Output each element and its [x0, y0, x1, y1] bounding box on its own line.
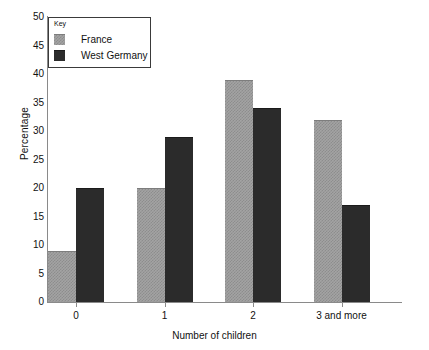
bar-france-2 [225, 80, 253, 302]
x-tick [76, 303, 77, 307]
x-axis-title: Number of children [0, 330, 429, 341]
y-tick-label: 15 [18, 212, 44, 222]
x-tick-label: 2 [250, 310, 256, 322]
x-tick-label: 0 [73, 310, 79, 322]
y-tick-label: 10 [18, 240, 44, 250]
x-tick-label: 1 [162, 310, 168, 322]
y-tick-label: 45 [18, 41, 44, 51]
bar-west-germany-3-and-more [342, 205, 370, 302]
legend-label-france: France [81, 33, 112, 46]
y-tick-label: 20 [18, 183, 44, 193]
legend-label-west-germany: West Germany [81, 49, 148, 62]
legend: Key France West Germany [48, 17, 151, 68]
y-axis-tick-labels: 05101520253035404550 [14, 0, 44, 350]
bar-france-1 [137, 188, 165, 302]
y-tick-label: 30 [18, 126, 44, 136]
bar-west-germany-2 [253, 108, 281, 302]
bar-west-germany-1 [165, 137, 193, 302]
y-tick-label: 0 [18, 297, 44, 307]
y-tick-label: 35 [18, 98, 44, 108]
legend-title: Key [54, 20, 66, 27]
x-tick [253, 303, 254, 307]
bar-france-0 [48, 251, 76, 302]
bar-west-germany-0 [76, 188, 104, 302]
x-tick-label: 3 and more [316, 310, 367, 322]
x-tick [342, 303, 343, 307]
x-tick [165, 303, 166, 307]
y-tick-label: 5 [18, 269, 44, 279]
y-tick-label: 50 [18, 12, 44, 22]
legend-swatch-west-germany [54, 50, 65, 61]
bar-france-3-and-more [314, 120, 342, 302]
bar-chart: Percentage 05101520253035404550 0123 and… [0, 0, 429, 350]
legend-swatch-france [54, 34, 65, 45]
y-tick-label: 40 [18, 69, 44, 79]
y-tick-label: 25 [18, 155, 44, 165]
x-axis-line [47, 302, 402, 303]
